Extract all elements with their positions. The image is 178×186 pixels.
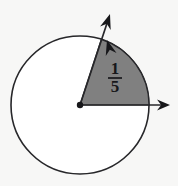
fraction-numerator: 1 <box>111 59 120 78</box>
angle-figure-container: 1 5 <box>0 0 178 186</box>
vertex-center-dot <box>77 102 83 108</box>
fraction-denominator: 5 <box>111 77 120 96</box>
angle-figure-svg: 1 5 <box>0 0 178 186</box>
